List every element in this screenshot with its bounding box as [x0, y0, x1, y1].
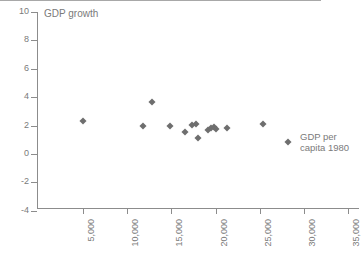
- data-point: [166, 122, 173, 129]
- x-tick-label: 30,000: [308, 219, 317, 247]
- data-point: [140, 122, 147, 129]
- data-point: [79, 117, 86, 124]
- y-tick-label: 4: [24, 92, 29, 101]
- y-tick-mark: [31, 182, 37, 183]
- x-tick-label: 15,000: [175, 219, 184, 247]
- y-tick-mark: [31, 154, 37, 155]
- data-point: [260, 121, 267, 128]
- x-tick-label: 20,000: [220, 219, 229, 247]
- y-axis-line: [37, 12, 38, 209]
- data-point: [284, 138, 291, 145]
- y-tick-mark: [31, 97, 37, 98]
- y-tick-label: 2: [24, 121, 29, 130]
- y-tick-label: -2: [21, 177, 29, 186]
- x-tick-label: 5,000: [87, 219, 96, 242]
- x-axis-title-line-1: GDP per: [300, 131, 356, 142]
- y-axis-title: GDP growth: [44, 8, 98, 19]
- y-tick-mark: [31, 12, 37, 13]
- data-point: [213, 126, 220, 133]
- x-tick-mark: [127, 208, 128, 214]
- x-tick-mark: [216, 208, 217, 214]
- zero-reference-line: [0, 0, 321, 1]
- x-tick-label: 35,000: [352, 219, 361, 247]
- x-axis-line: [37, 208, 359, 209]
- y-tick-label: 6: [24, 64, 29, 73]
- x-tick-mark: [304, 208, 305, 214]
- y-tick-mark: [31, 126, 37, 127]
- x-tick-label: 10,000: [131, 219, 140, 247]
- y-tick-label: 0: [24, 149, 29, 158]
- data-point: [223, 125, 230, 132]
- x-tick-mark: [83, 208, 84, 214]
- data-point: [148, 99, 155, 106]
- y-tick-label: -4: [21, 206, 29, 215]
- x-tick-mark: [171, 208, 172, 214]
- data-point: [182, 128, 189, 135]
- data-point: [194, 134, 201, 141]
- y-tick-label: 8: [24, 35, 29, 44]
- y-tick-mark: [31, 69, 37, 70]
- x-tick-label: 25,000: [264, 219, 273, 247]
- y-tick-mark: [31, 211, 37, 212]
- x-tick-mark: [260, 208, 261, 214]
- x-axis-title: GDP per capita 1980: [300, 131, 356, 153]
- y-tick-mark: [31, 40, 37, 41]
- x-axis-title-line-2: capita 1980: [300, 142, 356, 153]
- x-tick-mark: [348, 208, 349, 214]
- y-tick-label: 10: [19, 7, 29, 16]
